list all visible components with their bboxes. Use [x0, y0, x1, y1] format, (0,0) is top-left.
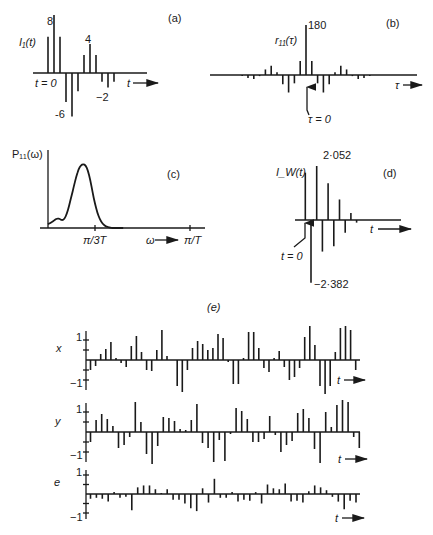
panel-b-label: (b) — [386, 17, 399, 29]
panel-c-xlabel: ω — [146, 234, 155, 246]
panel-c-ylabel: P₁₁(ω) — [12, 148, 43, 160]
panel-e-y-ytick-neg: −1 — [70, 449, 83, 461]
panel-d-origin-label: t = 0 — [281, 250, 304, 262]
panel-a-annotation-max: 8 — [47, 15, 53, 27]
panel-b-xlabel: τ — [395, 79, 400, 91]
panel-b: (b) r₁₁(τ) 180 τ τ = 0 — [210, 17, 422, 125]
panel-d-annotation-max: 2·052 — [323, 149, 351, 161]
panel-d-xlabel: t — [370, 223, 374, 235]
panel-e-e-xlabel: t — [335, 512, 339, 524]
panel-e: (e) x 1 −1 t y 1 −1 t e — [54, 301, 367, 524]
panel-b-annotation-max: 180 — [308, 19, 326, 31]
panel-e-x-xlabel: t — [337, 374, 341, 386]
panel-d-label: (d) — [383, 167, 396, 179]
panel-b-origin-arrow — [307, 87, 309, 115]
panel-d-origin-arrow — [294, 223, 305, 247]
panel-c-xtick-label-1: π/3T — [83, 234, 108, 246]
figure: (a) I₁(t) t = 0 t 8 4 -6 −2 (b) r₁₁(τ) 1… — [0, 0, 433, 535]
panel-d-ylabel: I_W(t) — [276, 166, 306, 178]
panel-a-annotation-neg2: −2 — [96, 91, 109, 103]
panel-a-label: (a) — [168, 12, 181, 24]
panel-a-xlabel: t — [127, 77, 131, 89]
panel-e-e-series: e 1 −1 t — [54, 466, 364, 524]
panel-c-label: (c) — [167, 168, 180, 180]
panel-b-stems — [242, 25, 370, 93]
panel-e-x-ytick-pos: 1 — [76, 331, 82, 343]
panel-d-stems — [305, 166, 356, 283]
panel-a-annotation-4: 4 — [85, 33, 91, 45]
panel-e-e-ytick-pos: 1 — [76, 466, 82, 478]
panel-e-y-xlabel: t — [338, 453, 342, 465]
panel-e-label: (e) — [207, 301, 221, 313]
panel-e-e-ytick-neg: −1 — [70, 511, 83, 523]
panel-a-annotation-min: -6 — [55, 108, 65, 120]
panel-e-x-name: x — [55, 342, 62, 354]
panel-e-y-name: y — [54, 415, 62, 427]
panel-c-curve — [48, 164, 123, 228]
panel-a: (a) I₁(t) t = 0 t 8 4 -6 −2 — [19, 12, 181, 120]
panel-d: 2·052 I_W(t) (d) t t = 0 −2·382 — [276, 149, 411, 290]
panel-b-ylabel: r₁₁(τ) — [275, 34, 297, 46]
panel-e-e-name: e — [54, 476, 60, 488]
panel-e-x-ytick-neg: −1 — [70, 377, 83, 389]
panel-e-e-stems — [91, 479, 357, 511]
panel-c-xtick-label-2: π/T — [184, 234, 202, 246]
panel-e-x-series: x 1 −1 t — [55, 326, 365, 394]
panel-a-origin-label: t = 0 — [35, 77, 58, 89]
panel-e-y-series: y 1 −1 t — [54, 400, 367, 465]
panel-b-origin-label: τ = 0 — [308, 113, 332, 125]
panel-d-annotation-min: −2·382 — [314, 278, 349, 290]
panel-a-ylabel: I₁(t) — [19, 36, 36, 48]
panel-e-y-ytick-pos: 1 — [76, 403, 82, 415]
panel-c: P₁₁(ω) (c) π/3T ω π/T — [12, 148, 205, 246]
